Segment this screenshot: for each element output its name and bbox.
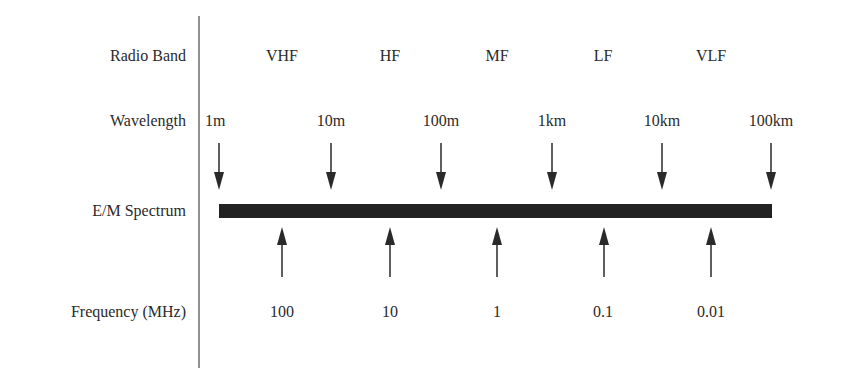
- frequency-arrows: [277, 227, 716, 277]
- arrow-down-icon: [326, 143, 336, 190]
- wavelength-arrows: [214, 143, 776, 190]
- arrow-up-icon: [599, 227, 609, 277]
- arrow-up-icon: [706, 227, 716, 277]
- arrow-up-icon: [492, 227, 502, 277]
- arrow-down-icon: [547, 143, 557, 190]
- arrow-up-icon: [277, 227, 287, 277]
- arrow-down-icon: [214, 143, 224, 190]
- spectrum-diagram: [0, 0, 841, 391]
- arrow-down-icon: [657, 143, 667, 190]
- arrow-up-icon: [385, 227, 395, 277]
- arrow-down-icon: [766, 143, 776, 190]
- spectrum-bar: [219, 204, 772, 218]
- arrow-down-icon: [436, 143, 446, 190]
